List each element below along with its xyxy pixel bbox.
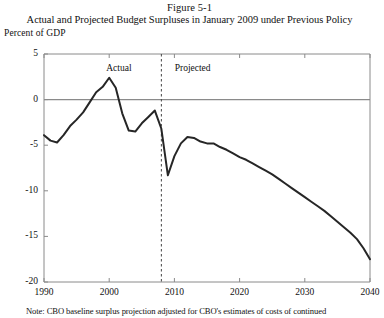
y-tick-label-neg15: -15 <box>10 230 38 240</box>
y-axis-ticks <box>44 54 48 282</box>
x-tick-label-1990: 1990 <box>24 287 64 297</box>
figure-note: Note: CBO baseline surplus projection ad… <box>26 306 378 316</box>
x-tick-label-2030: 2030 <box>285 287 325 297</box>
y-tick-label-neg5: -5 <box>10 139 38 149</box>
x-axis-ticks <box>44 54 370 282</box>
y-tick-label-0: 0 <box>10 94 38 104</box>
chart-axes <box>44 54 370 282</box>
x-tick-label-2010: 2010 <box>154 287 194 297</box>
y-tick-label-5: 5 <box>10 48 38 58</box>
x-tick-label-2040: 2040 <box>350 287 384 297</box>
y-tick-label-neg20: -20 <box>10 276 38 286</box>
surplus-series-line <box>44 78 370 259</box>
x-tick-label-2020: 2020 <box>220 287 260 297</box>
annotation-actual: Actual <box>106 63 131 73</box>
y-tick-label-neg10: -10 <box>10 185 38 195</box>
annotation-projected: Projected <box>175 63 211 73</box>
x-tick-label-2000: 2000 <box>89 287 129 297</box>
